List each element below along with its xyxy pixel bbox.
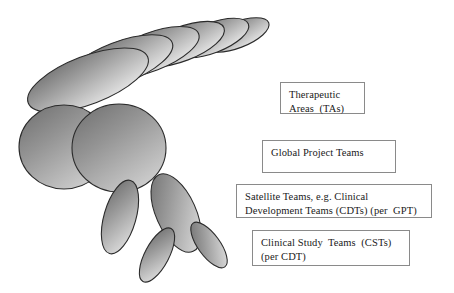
- diagram-canvas: Therapeutic Areas (TAs) Global Project T…: [0, 0, 454, 293]
- callout-line: Therapeutic: [289, 88, 357, 102]
- callout-clinical-study-teams: Clinical Study Teams (CSTs) (per CDT): [252, 230, 410, 266]
- callout-line: (per CDT): [261, 250, 402, 264]
- callout-global-project-teams: Global Project Teams: [262, 140, 396, 173]
- global-project-teams-circles: [19, 104, 166, 192]
- callout-line: Satellite Teams, e.g. Clinical: [245, 190, 424, 204]
- callout-line: Areas (TAs): [289, 102, 357, 116]
- global-project-team-circle: [72, 104, 166, 192]
- callout-satellite-teams: Satellite Teams, e.g. Clinical Developme…: [236, 184, 432, 218]
- callout-therapeutic-areas: Therapeutic Areas (TAs): [280, 82, 365, 114]
- callout-line: Global Project Teams: [271, 146, 388, 160]
- team-ellipse: [132, 223, 181, 287]
- callout-line: Clinical Study Teams (CSTs): [261, 236, 402, 250]
- callout-line: Development Teams (CDTs) (per GPT): [245, 204, 424, 218]
